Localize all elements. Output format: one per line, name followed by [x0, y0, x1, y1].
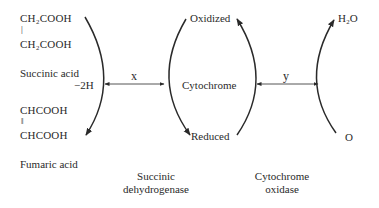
oxygen-label: O — [345, 131, 353, 143]
single-bond: | — [21, 25, 23, 34]
fumaric-acid-formula-line2: CHCOOH — [20, 129, 68, 141]
cytochrome-label: Cytochrome — [182, 79, 236, 91]
succinate-to-fumarate-arc — [85, 17, 104, 135]
fumaric-acid-formula-line1: CHCOOH — [20, 104, 68, 116]
fumaric-acid-label: Fumaric acid — [20, 158, 78, 170]
succinic-acid-formula-line1: CH₂COOH — [20, 12, 72, 24]
reduced-to-oxidized-arc — [237, 19, 256, 135]
cytochrome-oxidase-label-line1: Cytochrome — [240, 170, 324, 182]
succinic-dehydrogenase-label-line2: dehydrogenase — [110, 183, 202, 195]
y-label: y — [283, 70, 289, 82]
oxidized-to-reduced-arc — [169, 19, 190, 135]
succinic-acid-label: Succinic acid — [20, 67, 79, 79]
minus-2h-label: −2H — [74, 79, 94, 91]
cytochrome-oxidase-label-line2: oxidase — [240, 183, 324, 195]
oxidized-label: Oxidized — [190, 12, 230, 24]
water-label: H₂O — [338, 12, 358, 24]
double-bond: ‖ — [21, 117, 24, 126]
oxygen-to-water-arc — [316, 20, 336, 133]
succinic-dehydrogenase-label-line1: Succinic — [110, 170, 202, 182]
x-label: x — [131, 70, 137, 82]
reduced-label: Reduced — [191, 130, 229, 142]
succinic-acid-formula-line2: CH₂COOH — [20, 38, 72, 50]
